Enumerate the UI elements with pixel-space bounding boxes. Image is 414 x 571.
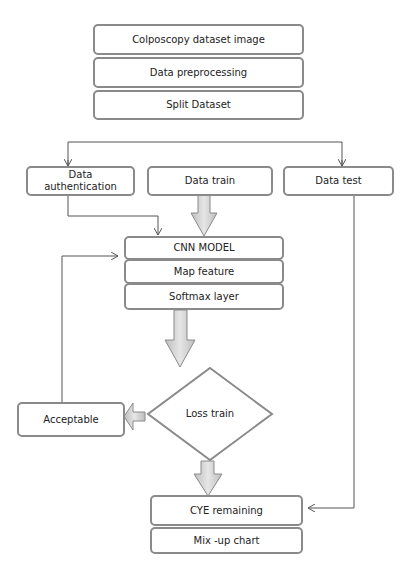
step-label: Colposcopy dataset image [132,34,265,46]
step-cnn-model: CNN MODEL [124,236,284,260]
step-dataset-image: Colposcopy dataset image [93,24,304,55]
step-label: Mix -up chart [194,535,260,547]
acceptable-loop-connector [62,256,118,402]
step-preprocessing: Data preprocessing [93,57,304,88]
test-to-output-connector [308,195,354,508]
step-split-dataset: Split Dataset [93,90,304,120]
acceptable-block-arrow-icon [124,403,145,430]
branch-data-authentication: Data authentication [26,166,135,196]
step-softmax-layer: Softmax layer [124,283,284,310]
branch-data-test: Data test [283,166,394,196]
train-block-arrow-icon [191,194,217,236]
softmax-block-arrow-icon [165,310,195,367]
decision-block-arrow-icon [194,461,222,496]
step-label: Softmax layer [169,291,239,303]
step-mixup-chart: Mix -up chart [150,527,303,554]
step-map-feature: Map feature [124,259,284,284]
branch-label: Data test [315,175,361,187]
auth-to-cnn-connector [68,195,158,235]
split-connector [68,142,342,166]
step-cye-remaining: CYE remaining [150,495,303,526]
branch-data-train: Data train [147,166,273,196]
step-label: Data preprocessing [150,67,247,79]
decision-label: Loss train [170,408,250,419]
step-label: Split Dataset [166,99,231,111]
step-acceptable: Acceptable [17,402,125,437]
branch-label-line1: Data [69,169,93,181]
step-label: CNN MODEL [173,242,234,254]
step-label: CYE remaining [190,505,263,517]
branch-label-line2: authentication [44,181,117,193]
step-label: Acceptable [43,414,99,426]
step-label: Map feature [174,266,234,278]
branch-label: Data train [185,175,235,187]
